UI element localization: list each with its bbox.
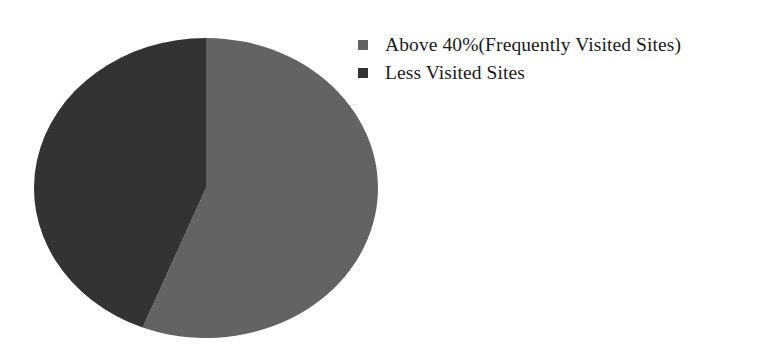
legend-swatch-frequently-visited: [358, 40, 368, 50]
legend-label-less-visited: Less Visited Sites: [385, 62, 525, 84]
legend-item-frequently-visited[interactable]: Above 40%(Frequently Visited Sites): [358, 31, 754, 59]
chart-legend: Above 40%(Frequently Visited Sites) Less…: [358, 31, 754, 87]
chart-figure: Above 40%(Frequently Visited Sites) Less…: [0, 0, 758, 364]
legend-item-less-visited[interactable]: Less Visited Sites: [358, 59, 754, 87]
legend-label-frequently-visited: Above 40%(Frequently Visited Sites): [385, 34, 681, 56]
legend-swatch-less-visited: [358, 68, 368, 78]
